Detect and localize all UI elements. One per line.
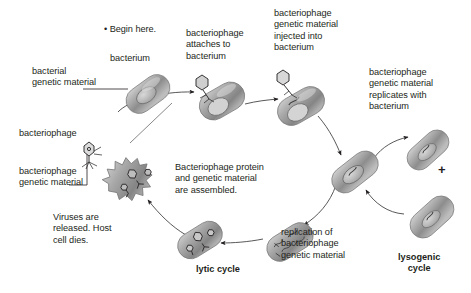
bacterium-icon-1 — [121, 69, 175, 118]
bacterial-genetic-material-label: bacterial genetic material — [32, 66, 96, 89]
arrow-icon-4 — [374, 137, 408, 158]
lysogenic-cycle-label: lysogenic cycle — [398, 252, 440, 274]
plus-sign: + — [438, 162, 446, 177]
arrow-icon-6 — [304, 185, 336, 225]
dna-injected-label: bacteriophage genetic material injected … — [274, 8, 338, 54]
arrow-icon-8 — [148, 200, 186, 235]
diagram-canvas: • Begin here. bacterium bacterial geneti… — [0, 0, 471, 293]
bacterium-icon-lysing — [97, 147, 161, 210]
bacterium-icon-8 — [173, 216, 227, 263]
bacterium-icon-3 — [272, 81, 329, 130]
arrow-icon-7 — [221, 239, 263, 243]
bacterium-icon-6 — [405, 191, 460, 244]
replication-label: replication of bacteriophage genetic mat… — [281, 227, 345, 261]
bacteriophage-icon-free — [82, 142, 102, 169]
arrow-icon-3 — [318, 116, 341, 155]
lytic-cycle-label: lytic cycle — [196, 264, 240, 275]
assembly-label: Bacteriophage protein and genetic materi… — [175, 162, 264, 196]
phage-attaches-label: bacteriophage attaches to bacterium — [186, 28, 244, 62]
phage-genetic-material-label: bacteriophage genetic material — [19, 166, 83, 189]
arrow-icon-2 — [245, 99, 278, 104]
viruses-released-label: Viruses are released. Host cell dies. — [53, 212, 112, 246]
bacteriophage-label: bacteriophage — [19, 128, 77, 139]
arrow-icon-5 — [366, 190, 404, 214]
bacterium-label: bacterium — [110, 53, 150, 64]
bacterium-icon-5 — [402, 125, 454, 175]
replicates-with-label: bacteriophage genetic material replicate… — [369, 67, 433, 113]
bacterium-icon-4 — [327, 146, 384, 199]
begin-here-label: • Begin here. — [104, 24, 156, 35]
